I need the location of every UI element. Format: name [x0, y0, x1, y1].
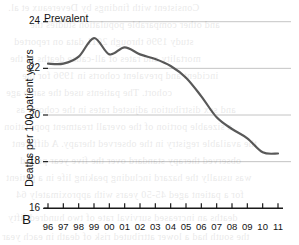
y-tick-label: 16	[18, 202, 40, 213]
data-line-prevalent	[48, 38, 278, 154]
x-tick-label: 03	[147, 221, 163, 232]
x-tick-label: 97	[55, 221, 71, 232]
x-tick-label: 98	[71, 221, 87, 232]
panel-letter: B	[22, 212, 31, 227]
plot-title: Prevalent	[44, 12, 88, 24]
x-tick-label: 06	[193, 221, 209, 232]
x-tick-label: 01	[117, 221, 133, 232]
line-chart-plot	[0, 0, 299, 245]
x-tick-label: 00	[101, 221, 117, 232]
y-tick-label: 20	[18, 109, 40, 120]
x-tick-label: 09	[239, 221, 255, 232]
y-tick-label: 24	[18, 15, 40, 26]
x-tick-label: 11	[270, 221, 286, 232]
x-tick-label: 10	[255, 221, 271, 232]
y-tick-label: 18	[18, 155, 40, 166]
x-tick-label: 07	[209, 221, 225, 232]
x-tick-label: 96	[40, 221, 56, 232]
x-tick-label: 02	[132, 221, 148, 232]
x-tick-label: 99	[86, 221, 102, 232]
y-tick-label: 22	[18, 62, 40, 73]
x-tick-label: 04	[163, 221, 179, 232]
x-tick-label: 05	[178, 221, 194, 232]
x-tick-label: 08	[224, 221, 240, 232]
figure-panel-b: Consistent with findings by Devereaux et…	[0, 0, 299, 245]
